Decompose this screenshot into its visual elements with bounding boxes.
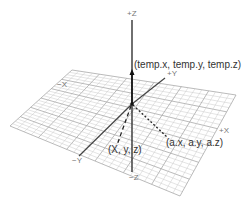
origin-point	[130, 102, 134, 106]
xyz-point-label: (X, y, z)	[108, 144, 142, 155]
temp-point-label: (temp.x, temp.y, temp.z)	[134, 59, 241, 70]
a-point-label: (a.x, a.y, a.z)	[166, 137, 223, 148]
pos-z-label: +Z	[127, 9, 137, 18]
grid-plane	[10, 70, 236, 196]
neg-y-label: −Y	[72, 156, 83, 165]
pos-x-label: +X	[219, 126, 230, 135]
coordinate-diagram: +Z −Z +Y −Y +X −X (temp.x, temp.y, temp.…	[0, 0, 243, 200]
neg-x-label: −X	[57, 80, 68, 89]
pos-y-label: +Y	[167, 69, 178, 78]
neg-z-label: −Z	[129, 173, 139, 182]
